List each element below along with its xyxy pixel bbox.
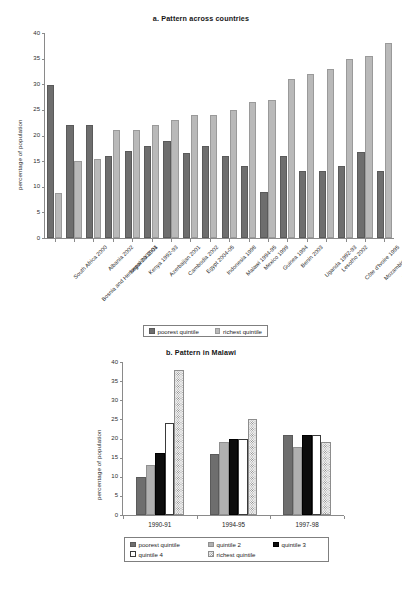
- y-tick-label: 40: [28, 30, 40, 36]
- y-tick-label: 40: [107, 359, 118, 365]
- bar-richest: [74, 161, 81, 238]
- quintile-4-swatch-icon: [130, 551, 136, 557]
- legend-b-label-richest: richest quintile: [217, 551, 256, 558]
- y-tick-mark: [120, 496, 123, 497]
- y-tick-label: 30: [28, 81, 40, 87]
- y-tick-mark: [42, 33, 45, 34]
- bar-richest: [230, 110, 237, 238]
- x-tick-mark: [171, 239, 172, 242]
- bar-richest: [248, 419, 258, 515]
- bar-quintile-2: [293, 447, 303, 515]
- y-tick-label: 15: [28, 158, 40, 164]
- bar-richest: [152, 125, 159, 238]
- chart-b-legend: poorest quintile quintile 2 quintile 3 q…: [124, 537, 329, 562]
- chart-b-ylabel: percentage of population: [95, 429, 102, 500]
- y-tick-label: 10: [107, 473, 118, 479]
- y-tick-mark: [120, 477, 123, 478]
- bar-poorest: [105, 156, 112, 239]
- y-tick-label: 20: [28, 132, 40, 138]
- x-tick-mark: [287, 239, 288, 242]
- chart-b-plot-area: [123, 362, 344, 515]
- y-tick-mark: [120, 458, 123, 459]
- chart-a-legend: poorest quintile richest quintile: [143, 325, 268, 337]
- legend-item-richest-quintile-b: richest quintile: [208, 551, 255, 558]
- x-tick-mark: [113, 239, 114, 242]
- bar-poorest: [299, 171, 306, 238]
- y-tick-mark: [42, 84, 45, 85]
- y-tick-label: 35: [107, 378, 118, 384]
- bar-poorest: [241, 166, 248, 238]
- y-tick-mark: [120, 400, 123, 401]
- x-tick-mark: [55, 239, 56, 242]
- legend-item-poorest-quintile-b: poorest quintile: [130, 541, 208, 548]
- bar-poorest: [202, 146, 209, 238]
- legend-item-richest-quintile: richest quintile: [215, 328, 262, 335]
- x-tick-mark: [123, 516, 124, 519]
- legend-b-label-q3: quintile 3: [282, 541, 306, 548]
- x-tick-mark: [74, 239, 75, 242]
- y-tick-label: 20: [107, 435, 118, 441]
- legend-item-quintile-4: quintile 4: [130, 551, 208, 558]
- x-tick-mark: [190, 239, 191, 242]
- y-tick-mark: [120, 381, 123, 382]
- bar-quintile-4: [165, 423, 175, 515]
- y-tick-label: 15: [107, 454, 118, 460]
- legend-item-poorest-quintile: poorest quintile: [149, 328, 199, 335]
- bar-poorest: [319, 171, 326, 238]
- x-tick-mark: [229, 239, 230, 242]
- quintile-3-swatch-icon: [273, 542, 279, 548]
- y-tick-mark: [120, 439, 123, 440]
- legend-b-label-q2: quintile 2: [217, 541, 241, 548]
- bar-poorest: [86, 125, 93, 238]
- y-tick-mark: [42, 212, 45, 213]
- x-tick-mark: [270, 516, 271, 519]
- bar-poorest: [183, 153, 190, 238]
- bar-richest: [385, 43, 392, 238]
- figure-page: a. Pattern across countries percentage o…: [0, 0, 402, 594]
- y-tick-mark: [42, 59, 45, 60]
- bar-richest: [113, 130, 120, 238]
- y-tick-mark: [42, 110, 45, 111]
- bar-poorest: [66, 125, 73, 238]
- chart-a-x-axis: [44, 238, 394, 239]
- bar-richest: [191, 115, 198, 238]
- y-tick-mark: [120, 515, 123, 516]
- bar-quintile-3: [155, 453, 165, 515]
- bar-quintile-4: [238, 439, 248, 516]
- bar-quintile-3: [302, 435, 312, 515]
- chart-a-ylabel: percentage of population: [16, 119, 23, 190]
- bar-richest: [174, 370, 184, 515]
- y-tick-mark: [120, 419, 123, 420]
- y-tick-label: 0: [107, 512, 118, 518]
- bar-poorest: [338, 166, 345, 238]
- bar-poorest: [210, 454, 220, 515]
- bar-richest: [288, 79, 295, 238]
- legend-label-poorest: poorest quintile: [158, 328, 199, 335]
- bar-poorest: [260, 192, 267, 238]
- x-group-label: 1997-98: [270, 521, 344, 528]
- quintile-2-swatch-icon: [208, 542, 214, 548]
- legend-item-quintile-2: quintile 2: [208, 541, 273, 548]
- bar-richest: [171, 120, 178, 238]
- y-tick-mark: [120, 362, 123, 363]
- y-tick-label: 25: [107, 416, 118, 422]
- bar-richest: [327, 69, 334, 238]
- x-tick-mark: [152, 239, 153, 242]
- bar-poorest: [283, 435, 293, 515]
- chart-b-x-axis: [122, 515, 344, 516]
- bar-richest: [94, 159, 101, 238]
- richest-quintile-swatch-icon: [215, 328, 221, 334]
- x-tick-mark: [365, 239, 366, 242]
- x-tick-mark: [307, 239, 308, 242]
- y-tick-label: 5: [107, 492, 118, 498]
- bar-poorest: [163, 141, 170, 238]
- chart-b-title: b. Pattern in Malawi: [0, 348, 402, 357]
- legend-label-richest: richest quintile: [223, 328, 262, 335]
- bar-poorest: [125, 151, 132, 238]
- bar-poorest: [377, 171, 384, 238]
- chart-a-plot-area: [45, 33, 394, 238]
- y-tick-label: 30: [107, 397, 118, 403]
- y-tick-label: 0: [28, 235, 40, 241]
- bar-quintile-4: [312, 435, 322, 515]
- richest-quintile-swatch-icon-b: [208, 551, 214, 557]
